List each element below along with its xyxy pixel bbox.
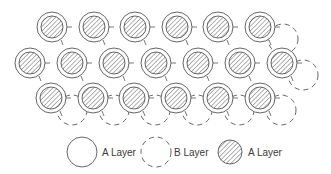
hatched-core [40,87,62,109]
a-layer-atom [141,48,176,81]
hatched-core [145,52,167,74]
hatched-core [124,16,146,38]
hatched-core [82,87,104,109]
a-layer-atom [36,83,71,116]
gap-tick [207,76,209,81]
hatched-core [19,52,41,74]
hatched-core [83,16,105,38]
hatched-core [166,16,188,38]
gap-tick [123,76,125,81]
hatched-circle-icon [218,140,242,164]
hatched-core [61,52,83,74]
hatched-core [229,52,251,74]
hatched-core [41,16,63,38]
hatched-core [271,52,293,74]
a-layer-atom [79,12,114,45]
gap-tick [269,40,271,45]
a-layer-atom [225,48,260,81]
legend-label: A Layer [102,147,137,158]
legend-item-b-layer: B Layer [141,137,209,167]
gap-tick [103,40,105,45]
gap-tick [39,76,41,81]
a-layer-atom [245,12,280,45]
gap-tick [186,40,188,45]
gap-tick [102,111,104,116]
gap-tick [185,111,187,116]
gap-tick [269,111,271,116]
gap-tick [61,40,63,45]
gap-tick [165,76,167,81]
gap-tick [227,40,229,45]
close-packing-diagram: A Layer B Layer A Layer [0,0,331,174]
legend: A Layer B Layer A Layer [67,137,283,167]
hatched-core [123,87,145,109]
gap-tick [60,111,62,116]
a-layer-atom [162,12,197,45]
a-layer-atom [203,83,238,116]
gap-tick [249,76,251,81]
a-layer-group [15,12,302,116]
a-layer-atom [99,48,134,81]
a-layer-atom [120,12,155,45]
a-layer-atom [203,12,238,45]
hatched-core [249,87,271,109]
hatched-core [207,16,229,38]
hatched-core [165,87,187,109]
legend-label: B Layer [174,147,209,158]
solid-circle-icon [67,137,97,167]
legend-item-a-layer-hatched: A Layer [218,140,283,164]
a-layer-atom [161,83,196,116]
hatched-core [207,87,229,109]
gap-tick [291,76,293,81]
gap-tick [144,40,146,45]
a-layer-atom [15,48,50,81]
a-layer-atom [37,12,72,45]
legend-item-a-layer-open: A Layer [67,137,137,167]
hatched-core [103,52,125,74]
legend-label: A Layer [248,147,283,158]
a-layer-atom [119,83,154,116]
a-layer-atom [183,48,218,81]
hatched-core [249,16,271,38]
dashed-circle-icon [141,137,171,167]
a-layer-atom [267,48,302,81]
gap-tick [81,76,83,81]
a-layer-atom [57,48,92,81]
gap-tick [143,111,145,116]
a-layer-atom [78,83,113,116]
hatched-core [187,52,209,74]
gap-tick [227,111,229,116]
a-layer-atom [245,83,280,116]
